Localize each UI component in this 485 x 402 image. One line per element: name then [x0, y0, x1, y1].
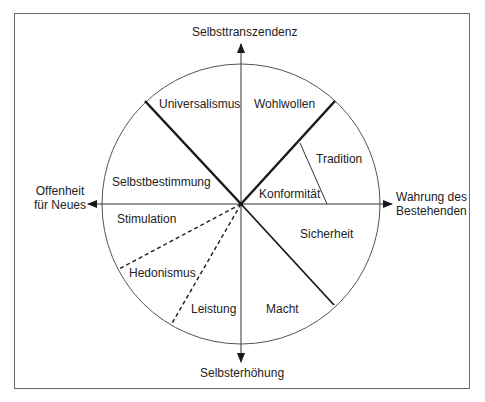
segment-tradition: Tradition — [316, 152, 362, 166]
segment-universalismus: Universalismus — [159, 97, 240, 111]
axis-label-left-line1: Offenheit — [30, 184, 90, 198]
segment-leistung: Leistung — [191, 302, 236, 316]
center-point — [239, 202, 243, 206]
segment-konformitaet: Konformität — [259, 187, 320, 201]
axis-label-top: Selbsttranszendenz — [192, 25, 297, 39]
segment-stimulation: Stimulation — [117, 212, 176, 226]
segment-wohlwollen: Wohlwollen — [254, 97, 315, 111]
axis-label-left-line2: für Neues — [30, 198, 90, 212]
axis-label-right: Wahrung des Bestehenden — [396, 190, 467, 218]
segment-hedonismus: Hedonismus — [129, 266, 196, 280]
segment-sicherheit: Sicherheit — [300, 227, 353, 241]
axis-label-right-line2: Bestehenden — [396, 204, 467, 218]
segment-macht: Macht — [266, 302, 299, 316]
axis-label-right-line1: Wahrung des — [396, 190, 467, 204]
axis-label-left: Offenheit für Neues — [30, 184, 90, 212]
axis-label-bottom: Selbsterhöhung — [200, 366, 284, 380]
segment-selbstbestimmung: Selbstbestimmung — [112, 175, 211, 189]
divider-sicherheit-macht — [241, 204, 334, 305]
